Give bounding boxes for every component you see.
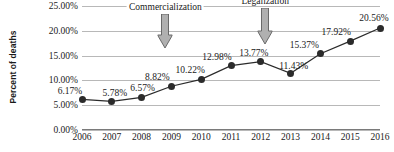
data-point-marker [347, 38, 354, 45]
data-point-marker [198, 76, 205, 83]
annotation-label: Legalization [240, 0, 291, 6]
data-point-marker [138, 94, 145, 101]
data-point-label: 13.77% [239, 48, 268, 58]
data-point-marker [79, 96, 86, 103]
data-point-label: 6.17% [58, 86, 83, 96]
plot-area: 6.17%5.78%6.57%8.82%10.22%12.98%13.77%11… [82, 6, 380, 130]
data-point-label: 5.78% [103, 88, 128, 98]
y-axis-tick-label: 5.00% [8, 100, 78, 110]
annotation-down-arrow-icon [158, 14, 173, 52]
data-point-label: 15.37% [290, 40, 319, 50]
annotation-label: Commercialization [127, 2, 204, 12]
data-point-label: 10.22% [176, 65, 205, 75]
data-point-label: 11.43% [279, 61, 308, 71]
data-point-label: 8.82% [145, 72, 170, 82]
data-point-marker [168, 83, 175, 90]
y-axis-tick-label: 25.00% [8, 1, 78, 11]
annotation-down-arrow-icon [258, 8, 273, 48]
y-axis-tick-label: 20.00% [8, 26, 78, 36]
data-point-label: 20.56% [359, 13, 388, 23]
data-point-marker [377, 25, 384, 32]
y-axis-tick-label: 15.00% [8, 51, 78, 61]
y-axis-tick-label: 10.00% [8, 75, 78, 85]
data-point-marker [228, 62, 235, 69]
data-point-label: 6.57% [130, 83, 155, 93]
gridline [82, 130, 380, 131]
data-point-label: 12.98% [202, 52, 231, 62]
data-point-label: 17.92% [322, 27, 351, 37]
x-axis-tick-label: 2016 [358, 132, 394, 142]
